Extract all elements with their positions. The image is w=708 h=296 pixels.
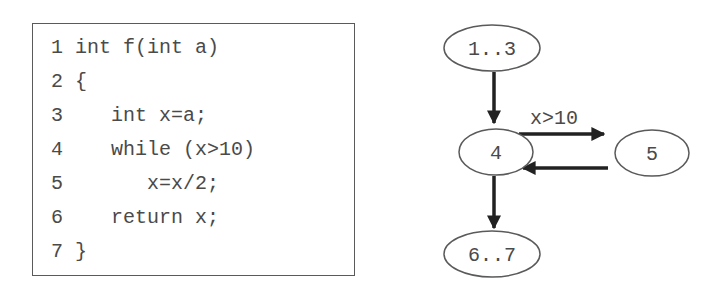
node-1-3: 1..3 [444,25,540,71]
node-5: 5 [615,130,689,176]
node-label: 4 [490,142,502,165]
node-4: 4 [459,129,533,175]
node-6-7: 6..7 [444,231,540,277]
node-label: 5 [646,143,658,166]
node-label: 1..3 [468,38,516,61]
edge-label-condition: x>10 [530,107,578,130]
control-flow-graph: x>10 1..3 4 5 6..7 [0,0,708,296]
node-label: 6..7 [468,244,516,267]
